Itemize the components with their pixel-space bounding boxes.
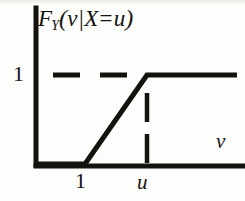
figure-conditional-cdf: FY(v|X=u) 1 1 u v	[0, 0, 245, 201]
y-tick-label-1: 1	[13, 63, 24, 85]
title-condition-variable: X	[84, 6, 98, 31]
title-subscript: Y	[51, 18, 59, 33]
title-condition-value: u	[114, 6, 126, 31]
title-equals-sign: =	[99, 6, 112, 31]
x-tick-label-1: 1	[75, 170, 86, 192]
title-close-paren: )	[125, 5, 133, 31]
cdf-curve	[37, 75, 237, 164]
x-axis-label: v	[216, 131, 225, 152]
x-tick-label-u: u	[137, 172, 148, 193]
figure-title-expression: FY(v|X=u)	[38, 6, 134, 33]
title-variable: v	[67, 6, 77, 31]
